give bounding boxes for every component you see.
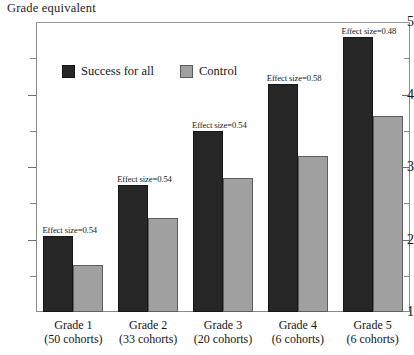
y-tick-mark-4 (28, 95, 36, 96)
effect-size-annotation-grade-1: Effect size=0.54 (42, 225, 97, 235)
bar-treatment-grade-5 (343, 37, 373, 313)
y-tick-mark-right-4 (402, 95, 410, 96)
bar-treatment-grade-3 (193, 131, 223, 312)
x-axis-category-name: Grade 3 (186, 318, 261, 332)
x-axis-category-name: Grade 1 (36, 318, 111, 332)
x-axis-category-cohorts: (6 cohorts) (335, 332, 410, 346)
bar-treatment-grade-2 (118, 185, 148, 312)
y-tick-mark-right-2-5 (404, 203, 410, 204)
y-tick-mark-4-5 (30, 58, 36, 59)
y-tick-mark-2 (28, 240, 36, 241)
y-tick-mark-3 (28, 167, 36, 168)
x-axis-category-2: Grade 2(33 cohorts) (111, 318, 186, 346)
y-tick-mark-right-1-5 (404, 276, 410, 277)
legend-label-control: Control (199, 64, 237, 79)
y-tick-mark-1-5 (30, 276, 36, 277)
legend-label-treatment: Success for all (81, 64, 154, 79)
legend-swatch-control-icon (180, 65, 193, 78)
bar-control-grade-4 (298, 156, 328, 312)
bar-control-grade-1 (73, 265, 103, 312)
x-axis-category-name: Grade 2 (111, 318, 186, 332)
legend-swatch-treatment-icon (62, 65, 75, 78)
bar-treatment-grade-1 (43, 236, 73, 312)
effect-size-annotation-grade-5: Effect size=0.48 (342, 26, 397, 36)
effect-size-annotation-grade-3: Effect size=0.54 (192, 120, 247, 130)
bar-control-grade-5 (373, 116, 403, 312)
y-tick-mark-3-5 (30, 131, 36, 132)
y-tick-mark-right-3-5 (404, 131, 410, 132)
y-tick-mark-2-5 (30, 203, 36, 204)
legend-item-control: Control (180, 64, 237, 79)
x-axis-category-cohorts: (33 cohorts) (111, 332, 186, 346)
legend-item-success-for-all: Success for all (62, 64, 154, 79)
y-tick-mark-right-4-5 (404, 58, 410, 59)
effect-size-annotation-grade-2: Effect size=0.54 (117, 174, 172, 184)
bar-control-grade-3 (223, 178, 253, 312)
x-axis-category-5: Grade 5(6 cohorts) (335, 318, 410, 346)
effect-size-annotation-grade-4: Effect size=0.58 (267, 73, 322, 83)
chart-legend: Success for all Control (62, 64, 237, 79)
grade-equivalent-bar-chart: Grade equivalent 5 4 3 2 1 Success for a… (0, 0, 414, 355)
x-axis-category-cohorts: (50 cohorts) (36, 332, 111, 346)
x-axis-category-cohorts: (20 cohorts) (186, 332, 261, 346)
bar-control-grade-2 (148, 218, 178, 312)
x-axis-category-1: Grade 1(50 cohorts) (36, 318, 111, 346)
x-axis-category-cohorts: (6 cohorts) (260, 332, 335, 346)
y-tick-mark-right-3 (402, 167, 410, 168)
x-axis-category-3: Grade 3(20 cohorts) (186, 318, 261, 346)
x-axis-category-name: Grade 5 (335, 318, 410, 332)
y-tick-mark-right-2 (402, 240, 410, 241)
x-axis-category-name: Grade 4 (260, 318, 335, 332)
y-axis-title: Grade equivalent (7, 1, 96, 16)
x-axis-category-4: Grade 4(6 cohorts) (260, 318, 335, 346)
bar-treatment-grade-4 (268, 84, 298, 312)
